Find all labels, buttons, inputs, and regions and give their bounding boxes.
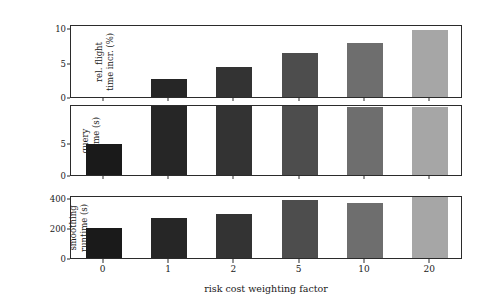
panel-smoothing-runtime: 0200400 01251020 smoothing runtime (s) (70, 196, 462, 259)
y-tick-label: 200 (50, 225, 66, 234)
y-tick-label: 5 (61, 139, 66, 148)
y-axis-label-smoothing: smoothing runtime (s) (68, 196, 94, 259)
y-axis-label-flight: rel. flight time incr. (%) (94, 25, 120, 98)
y-tick-mark (67, 29, 70, 30)
bar (282, 106, 318, 175)
bar-series-smoothing (71, 197, 461, 258)
bar (216, 214, 252, 258)
y-axis-label-query: query runtime (s) (80, 105, 106, 176)
bar (216, 106, 252, 175)
x-tick-mark (298, 176, 299, 179)
x-tick-mark (429, 98, 430, 101)
bar (412, 107, 448, 175)
bar (347, 107, 383, 175)
x-tick-mark (102, 176, 103, 179)
bar (412, 30, 448, 97)
x-tick-mark (429, 259, 430, 263)
bar (151, 218, 187, 259)
x-tick-mark (233, 176, 234, 179)
y-tick-mark (67, 63, 70, 64)
axes-frame-query (70, 105, 462, 176)
x-tick-mark (298, 98, 299, 101)
x-tick-mark (298, 259, 299, 263)
panel-rel-flight-time: 0510 rel. flight time incr. (%) (70, 25, 462, 98)
x-tick-mark (364, 259, 365, 263)
y-tick-mark (67, 176, 70, 177)
axes-frame-smoothing (70, 196, 462, 259)
bar (151, 79, 187, 97)
bar (347, 43, 383, 97)
x-tick-mark (102, 259, 103, 263)
bar (216, 67, 252, 97)
x-tick-mark (168, 98, 169, 101)
bar (282, 200, 318, 258)
x-tick-mark (233, 98, 234, 101)
y-tick-label: 10 (55, 25, 66, 34)
x-tick-mark (364, 98, 365, 101)
axes-frame-flight (70, 25, 462, 98)
bar (412, 197, 448, 259)
bar (347, 203, 383, 259)
y-tick-label: 0 (61, 94, 66, 103)
bar (151, 105, 187, 175)
figure: 0510 rel. flight time incr. (%) 05 query… (0, 0, 479, 308)
x-tick-label: 10 (358, 265, 369, 274)
x-tick-mark (429, 176, 430, 179)
bar-series-flight (71, 26, 461, 97)
bar-series-query (71, 106, 461, 175)
x-tick-label: 2 (230, 265, 236, 274)
y-tick-label: 5 (61, 59, 66, 68)
x-tick-mark (168, 176, 169, 179)
x-tick-label: 20 (424, 265, 435, 274)
x-tick-mark (364, 176, 365, 179)
x-tick-label: 5 (296, 265, 302, 274)
bar (282, 53, 318, 97)
x-tick-label: 1 (165, 265, 171, 274)
y-tick-label: 0 (61, 255, 66, 264)
y-tick-mark (67, 143, 70, 144)
x-axis-label: risk cost weighting factor (70, 284, 462, 294)
x-tick-mark (233, 259, 234, 263)
y-tick-label: 0 (61, 172, 66, 181)
panel-query-runtime: 05 query runtime (s) (70, 105, 462, 176)
x-tick-mark (168, 259, 169, 263)
x-tick-mark (102, 98, 103, 101)
y-tick-label: 400 (50, 195, 66, 204)
x-tick-label: 0 (100, 265, 106, 274)
y-tick-mark (67, 98, 70, 99)
